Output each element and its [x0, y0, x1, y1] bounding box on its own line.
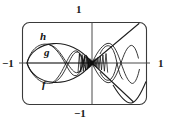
- lower-right-arc: [113, 82, 146, 104]
- curve-label-h: h: [40, 31, 46, 42]
- axis-label-right: 1: [158, 58, 164, 69]
- axis-label-top: 1: [76, 4, 82, 15]
- curve-label-f: f: [42, 79, 46, 90]
- oscillation-left: [27, 44, 92, 83]
- axis-label-bottom: −1: [74, 108, 86, 119]
- axis-label-left: −1: [2, 58, 14, 69]
- envelope-f-right: [92, 63, 133, 102]
- curve-label-g: g: [44, 47, 50, 58]
